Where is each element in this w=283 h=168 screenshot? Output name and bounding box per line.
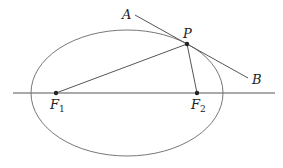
label-p: P [182, 26, 192, 41]
label-b: B [251, 72, 262, 87]
label-f1-sub: 1 [59, 104, 65, 114]
focus-f1-point [54, 91, 58, 95]
label-f2: F2 [190, 97, 206, 114]
label-f2-sub: 2 [200, 104, 206, 114]
focus-f2-point [195, 91, 199, 95]
ellipse-diagram: A P B F1 F2 [0, 0, 283, 168]
label-f1: F1 [49, 97, 65, 114]
point-p [185, 42, 189, 46]
segment-f1-p [56, 44, 187, 93]
segment-f2-p [187, 44, 197, 93]
label-a: A [121, 7, 131, 22]
